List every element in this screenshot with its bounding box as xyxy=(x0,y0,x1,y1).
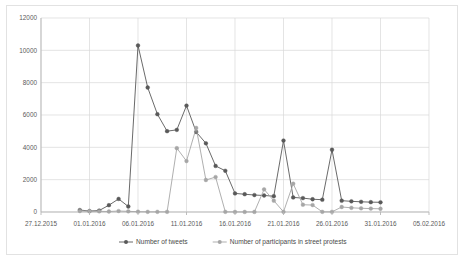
data-point-marker xyxy=(369,207,373,211)
data-point-marker xyxy=(97,209,101,213)
chart-frame: 020004000600080001000012000 27.12.201501… xyxy=(6,5,458,255)
data-point-marker xyxy=(156,210,160,214)
data-point-marker xyxy=(146,86,150,90)
line-chart: 020004000600080001000012000 27.12.201501… xyxy=(7,6,457,254)
data-point-marker xyxy=(291,182,295,186)
x-tick-label: 01.01.2016 xyxy=(74,220,106,227)
legend-label: Number of participants in street protest… xyxy=(230,238,348,246)
data-point-marker xyxy=(165,210,169,214)
data-point-marker xyxy=(146,210,150,214)
data-point-marker xyxy=(320,198,324,202)
x-axis-labels: 27.12.201501.01.201606.01.201611.01.2016… xyxy=(25,212,445,227)
chart-legend: Number of tweetsNumber of participants i… xyxy=(119,238,347,246)
data-point-marker xyxy=(282,139,286,143)
y-tick-label: 10000 xyxy=(19,47,37,54)
data-point-marker xyxy=(253,193,257,197)
data-point-marker xyxy=(156,112,160,116)
x-tick-label: 06.01.2016 xyxy=(122,220,154,227)
x-tick-label: 11.01.2016 xyxy=(171,220,203,227)
data-point-marker xyxy=(350,206,354,210)
grid-layer xyxy=(41,18,429,212)
data-point-marker xyxy=(369,200,373,204)
data-point-marker xyxy=(117,209,121,213)
x-tick-label: 26.01.2016 xyxy=(316,220,348,227)
data-point-marker xyxy=(311,197,315,201)
y-tick-label: 12000 xyxy=(19,14,37,21)
data-point-marker xyxy=(243,210,247,214)
data-point-marker xyxy=(379,207,383,211)
legend-item[interactable]: Number of tweets xyxy=(119,238,188,245)
data-point-marker xyxy=(185,104,189,108)
data-point-marker xyxy=(165,129,169,133)
data-point-marker xyxy=(204,141,208,145)
data-point-marker xyxy=(175,146,179,150)
y-tick-label: 4000 xyxy=(23,144,38,151)
legend-marker xyxy=(124,240,128,244)
y-axis-labels: 020004000600080001000012000 xyxy=(19,14,37,215)
data-point-marker xyxy=(340,199,344,203)
x-tick-label: 27.12.2015 xyxy=(25,220,57,227)
data-point-marker xyxy=(243,192,247,196)
data-point-marker xyxy=(359,206,363,210)
data-point-marker xyxy=(223,169,227,173)
data-point-marker xyxy=(272,199,276,203)
data-point-marker xyxy=(340,205,344,209)
data-point-marker xyxy=(379,200,383,204)
data-point-marker xyxy=(223,210,227,214)
legend-label: Number of tweets xyxy=(136,238,188,245)
data-point-marker xyxy=(136,44,140,48)
data-point-marker xyxy=(301,203,305,207)
data-point-marker xyxy=(301,196,305,200)
x-tick-label: 31.01.2016 xyxy=(365,220,397,227)
data-point-marker xyxy=(194,126,198,130)
y-tick-label: 2000 xyxy=(23,176,38,183)
y-tick-label: 0 xyxy=(33,208,37,215)
data-point-marker xyxy=(359,200,363,204)
y-tick-label: 8000 xyxy=(23,79,38,86)
legend-marker xyxy=(218,240,222,244)
data-point-marker xyxy=(126,209,130,213)
data-point-marker xyxy=(204,178,208,182)
y-tick-label: 6000 xyxy=(23,111,38,118)
data-point-marker xyxy=(126,205,130,209)
x-tick-label: 16.01.2016 xyxy=(219,220,251,227)
data-point-marker xyxy=(272,194,276,198)
data-point-marker xyxy=(78,209,82,213)
legend-item[interactable]: Number of participants in street protest… xyxy=(213,238,348,246)
data-point-marker xyxy=(311,203,315,207)
data-point-marker xyxy=(107,210,111,214)
data-point-marker xyxy=(262,187,266,191)
data-point-marker xyxy=(262,194,266,198)
x-tick-label: 21.01.2016 xyxy=(268,220,300,227)
data-point-marker xyxy=(330,148,334,152)
data-point-marker xyxy=(117,197,121,201)
data-point-marker xyxy=(185,159,189,163)
data-point-marker xyxy=(107,203,111,207)
data-point-marker xyxy=(253,210,257,214)
data-point-marker xyxy=(175,128,179,132)
x-tick-label: 05.02.2016 xyxy=(413,220,445,227)
data-point-marker xyxy=(350,199,354,203)
data-point-marker xyxy=(291,196,295,200)
data-point-marker xyxy=(320,210,324,214)
data-point-marker xyxy=(214,175,218,179)
data-point-marker xyxy=(214,164,218,168)
data-point-marker xyxy=(233,192,237,196)
